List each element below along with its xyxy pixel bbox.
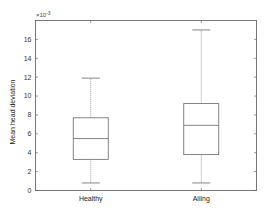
box-healthy	[73, 78, 108, 183]
axes-box	[36, 21, 257, 191]
y-tick-label: 0	[28, 187, 32, 194]
y-tick-label: 12	[24, 74, 32, 81]
box-ailing	[184, 30, 219, 183]
y-tick-label: 6	[28, 130, 32, 137]
box-series	[73, 30, 219, 183]
x-axis-ticks: HealthyAiling	[79, 21, 210, 203]
iqr-box	[184, 104, 219, 155]
box-plot-chart: 0246810121416 HealthyAiling Mean head de…	[0, 0, 271, 213]
y-tick-label: 16	[24, 36, 32, 43]
y-axis-ticks: 0246810121416	[24, 36, 257, 194]
x-tick-label: Healthy	[79, 195, 103, 203]
y-axis-label: Mean head deviation	[9, 79, 16, 144]
y-tick-label: 10	[24, 92, 32, 99]
y-tick-label: 8	[28, 111, 32, 118]
y-axis-exponent: ×10-3	[36, 10, 51, 19]
x-tick-label: Ailing	[193, 195, 210, 203]
exponent-power: -3	[46, 10, 51, 16]
y-tick-label: 14	[24, 55, 32, 62]
y-tick-label: 4	[28, 149, 32, 156]
plot-frame	[36, 21, 257, 191]
y-tick-label: 2	[28, 168, 32, 175]
